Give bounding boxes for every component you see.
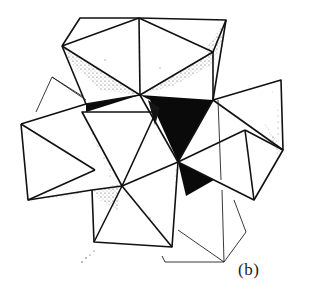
polyhedra-edges	[21, 18, 283, 247]
dark-faces	[86, 95, 214, 196]
faint-edges	[36, 77, 246, 262]
polyhedra-figure	[0, 0, 310, 297]
figure-label: (b)	[238, 260, 259, 280]
